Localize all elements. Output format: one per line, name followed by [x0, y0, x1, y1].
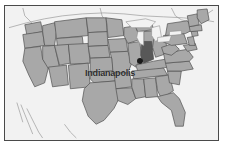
state-arizona: [49, 65, 69, 87]
city-label-indianapolis: Indianapolis: [85, 68, 135, 78]
state-new-jersey: [187, 37, 195, 46]
state-alabama: [144, 78, 158, 98]
state-maine: [197, 9, 209, 24]
lake-ontario: [169, 31, 181, 36]
state-north-dakota: [86, 18, 107, 33]
state-colorado: [68, 43, 90, 64]
state-iowa: [108, 39, 128, 53]
state-south-carolina: [167, 71, 181, 85]
state-nebraska: [88, 45, 110, 58]
state-florida: [158, 93, 186, 127]
state-montana: [55, 18, 89, 39]
city-dot-icon[interactable]: [137, 58, 143, 64]
map-screenshot: Indianapolis: [0, 0, 225, 148]
state-oregon: [23, 32, 45, 49]
state-idaho: [43, 23, 57, 46]
state-minnesota: [106, 18, 124, 38]
map-frame: Indianapolis: [4, 5, 219, 141]
state-texas: [82, 81, 120, 124]
state-south-dakota: [88, 32, 108, 47]
lake-superior: [126, 19, 156, 28]
